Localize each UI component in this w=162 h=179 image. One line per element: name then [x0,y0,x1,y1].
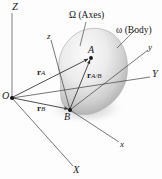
vector-label-rAB: rA/B [87,71,102,80]
axis-label-x: x [120,140,124,149]
vector-subscript-rAB: A/B [91,72,102,80]
axis-label-Z: Z [12,2,18,13]
axis-label-z: z [47,32,51,41]
axis-label-Y: Y [152,69,158,80]
vector-label-rB: rB [37,104,45,113]
vector-subscript-rA: A [41,69,45,77]
dynamics-figure: Z Y X z y x O A B rA rB rA/B Ω (Axes) ω … [0,0,162,179]
point-marker-A [89,56,93,60]
vector-subscript-rB: B [41,105,45,113]
point-marker-O [10,96,14,100]
point-label-O: O [2,91,9,101]
annotation-omega-body: ω (Body) [116,26,152,36]
point-label-B: B [64,112,70,122]
point-label-A: A [88,45,94,55]
axis-label-X: X [73,165,79,176]
annotation-omega-axes: Ω (Axes) [69,11,104,21]
axis-label-y: y [148,43,152,52]
vector-label-rA: rA [37,68,45,77]
